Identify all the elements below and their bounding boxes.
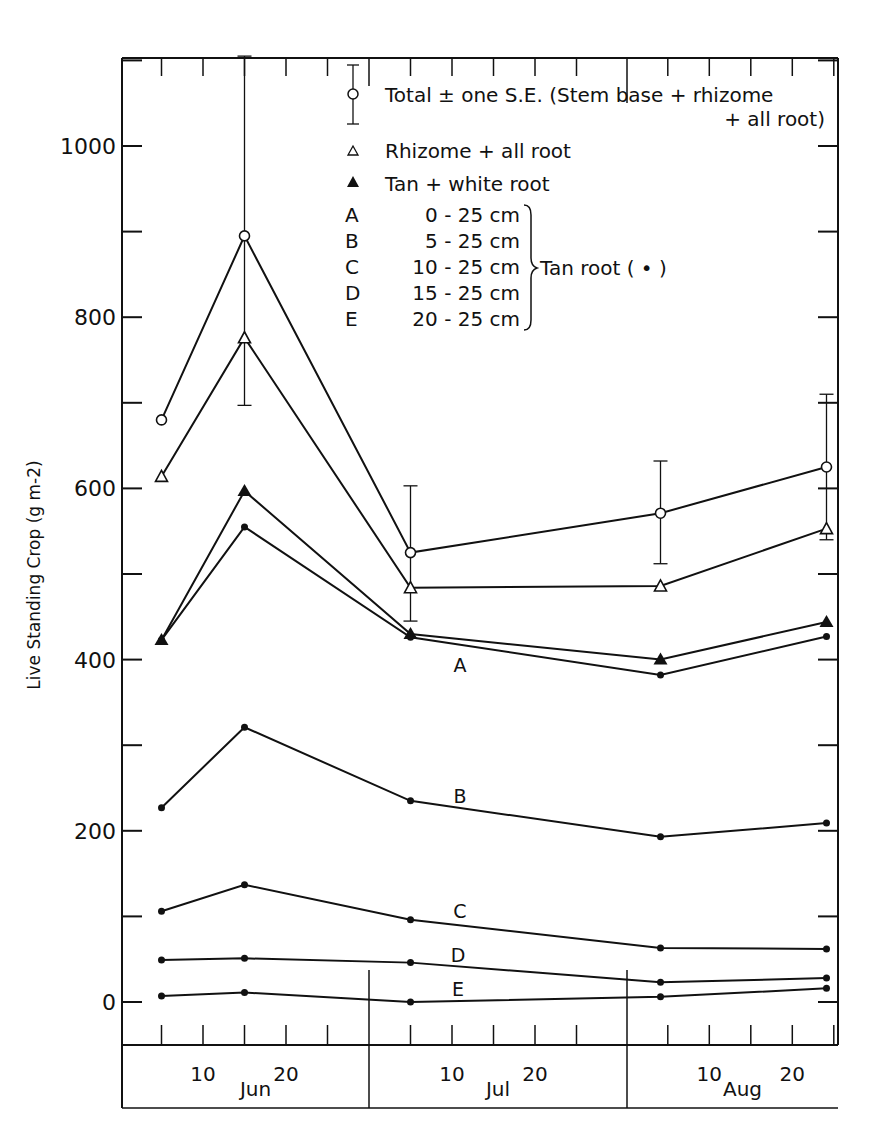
- marker-dot: [823, 820, 830, 827]
- marker-dot: [657, 672, 664, 679]
- series-line: [162, 988, 827, 1002]
- legend-open-circle-icon: [348, 89, 358, 99]
- marker-dot: [657, 979, 664, 986]
- marker-open-circle: [240, 231, 250, 241]
- series-label-c: C: [453, 900, 466, 922]
- legend-depth-letter-c: C: [345, 255, 359, 279]
- marker-dot: [241, 955, 248, 962]
- legend-rhizome-label: Rhizome + all root: [385, 139, 571, 163]
- series-label-b: B: [453, 785, 466, 807]
- legend-open-triangle-icon: [348, 146, 358, 155]
- y-tick-label: 0: [102, 990, 116, 1015]
- marker-open-triangle: [239, 332, 251, 343]
- y-axis-title: Live Standing Crop (g m-2): [24, 460, 44, 689]
- marker-dot: [158, 993, 165, 1000]
- marker-open-triangle: [821, 523, 833, 534]
- marker-open-circle: [822, 462, 832, 472]
- legend-depth-letter-d: D: [345, 281, 360, 305]
- marker-dot: [241, 724, 248, 731]
- x-tick-label: 10: [697, 1062, 722, 1086]
- series-line: [162, 885, 827, 949]
- marker-open-circle: [656, 508, 666, 518]
- marker-dot: [657, 993, 664, 1000]
- marker-dot: [823, 945, 830, 952]
- marker-open-triangle: [156, 470, 168, 481]
- series-line: [162, 958, 827, 982]
- marker-dot: [657, 945, 664, 952]
- marker-dot: [823, 985, 830, 992]
- data-series: [155, 231, 834, 1006]
- x-tick-label: 20: [780, 1062, 805, 1086]
- marker-dot: [407, 797, 414, 804]
- marker-dot: [823, 975, 830, 982]
- marker-dot: [657, 833, 664, 840]
- legend-depth-range: 0 - 25 cm: [425, 203, 520, 227]
- legend-total-label: Total ± one S.E. (Stem base + rhizome: [384, 83, 773, 107]
- series-line: [162, 338, 827, 588]
- legend-tanwhite-label: Tan + white root: [384, 172, 550, 196]
- marker-dot: [241, 881, 248, 888]
- x-tick-label: 10: [439, 1062, 464, 1086]
- marker-dot: [158, 908, 165, 915]
- series-line: [162, 527, 827, 675]
- series-line: [162, 491, 827, 660]
- legend-depth-range: 5 - 25 cm: [425, 229, 520, 253]
- legend-brace-label: Tan root ( • ): [539, 256, 667, 280]
- legend-filled-triangle-icon: [347, 176, 359, 187]
- legend-depth-letter-e: E: [345, 307, 358, 331]
- legend: Total ± one S.E. (Stem base + rhizome+ a…: [345, 65, 825, 331]
- marker-open-circle: [406, 548, 416, 558]
- y-tick-label: 800: [74, 305, 116, 330]
- marker-filled-triangle: [238, 484, 252, 496]
- chart-root: 02004006008001000 102010201020JunJulAug …: [0, 0, 874, 1133]
- marker-dot: [407, 634, 414, 641]
- marker-dot: [241, 523, 248, 530]
- month-label-jun: Jun: [238, 1077, 271, 1101]
- marker-dot: [158, 804, 165, 811]
- month-label-aug: Aug: [723, 1077, 762, 1101]
- y-tick-label: 400: [74, 648, 116, 673]
- marker-filled-triangle: [820, 615, 834, 627]
- marker-dot: [407, 999, 414, 1006]
- legend-depth-letter-b: B: [345, 229, 359, 253]
- marker-dot: [823, 633, 830, 640]
- marker-dot: [158, 636, 165, 643]
- legend-depth-range: 20 - 25 cm: [412, 307, 520, 331]
- legend-depth-letter-a: A: [345, 203, 359, 227]
- y-tick-label: 200: [74, 819, 116, 844]
- x-tick-label: 10: [190, 1062, 215, 1086]
- marker-dot: [407, 959, 414, 966]
- legend-depth-range: 10 - 25 cm: [412, 255, 520, 279]
- y-tick-label: 1000: [60, 134, 116, 159]
- series-label-a: A: [454, 654, 467, 676]
- legend-brace: [524, 205, 537, 330]
- marker-open-circle: [157, 415, 167, 425]
- y-tick-label: 600: [74, 476, 116, 501]
- month-label-jul: Jul: [484, 1077, 510, 1101]
- x-tick-label: 20: [273, 1062, 298, 1086]
- series-line: [162, 727, 827, 837]
- series-label-e: E: [452, 978, 464, 1000]
- marker-dot: [241, 989, 248, 996]
- marker-dot: [407, 916, 414, 923]
- legend-total-label-cont: + all root): [724, 107, 825, 131]
- series-label-d: D: [451, 944, 466, 966]
- marker-dot: [158, 957, 165, 964]
- x-tick-label: 20: [522, 1062, 547, 1086]
- series-labels: ABCDE: [451, 654, 467, 1000]
- legend-depth-range: 15 - 25 cm: [412, 281, 520, 305]
